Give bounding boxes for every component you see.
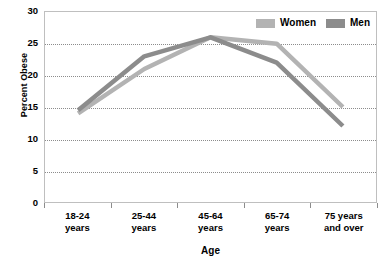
x-axis-tick-mark xyxy=(244,203,245,208)
chart-legend: Women Men xyxy=(256,18,370,28)
legend-label-men: Men xyxy=(350,18,370,28)
legend-entry-men: Men xyxy=(326,18,370,28)
x-axis-tick-mark xyxy=(310,203,311,208)
y-axis-tick-label: 10 xyxy=(12,134,38,144)
y-axis-tick-label: 25 xyxy=(12,38,38,48)
x-axis-tick-label-line: and over xyxy=(302,222,386,234)
y-axis-tick-label: 5 xyxy=(12,166,38,176)
x-axis-tick-mark xyxy=(377,203,378,208)
legend-entry-women: Women xyxy=(256,18,316,28)
x-axis-tick-marks xyxy=(44,203,377,208)
y-axis-tick-label: 0 xyxy=(12,198,38,208)
plot-lines xyxy=(45,12,376,202)
x-axis-title: Age xyxy=(44,245,377,256)
obesity-by-age-line-chart: Percent Obese 051015202530 Women Men 18-… xyxy=(0,0,391,268)
legend-swatch-women xyxy=(256,19,275,28)
legend-label-women: Women xyxy=(280,18,316,28)
x-axis-tick-label: 75 yearsand over xyxy=(302,210,386,234)
x-axis-tick-label-line: 75 years xyxy=(302,210,386,222)
x-axis-tick-labels: 18-24years25-44years45-64years65-74years… xyxy=(44,210,377,242)
x-axis-tick-mark xyxy=(177,203,178,208)
y-axis-tick-label: 20 xyxy=(12,70,38,80)
y-axis-tick-label: 30 xyxy=(12,6,38,16)
plot-area: Women Men xyxy=(44,11,377,203)
series-line-men xyxy=(78,37,343,126)
x-axis-tick-mark xyxy=(111,203,112,208)
y-axis-tick-label: 15 xyxy=(12,102,38,112)
legend-swatch-men xyxy=(326,19,345,28)
y-axis-tick-labels: 051015202530 xyxy=(12,0,38,268)
x-axis-tick-mark xyxy=(44,203,45,208)
